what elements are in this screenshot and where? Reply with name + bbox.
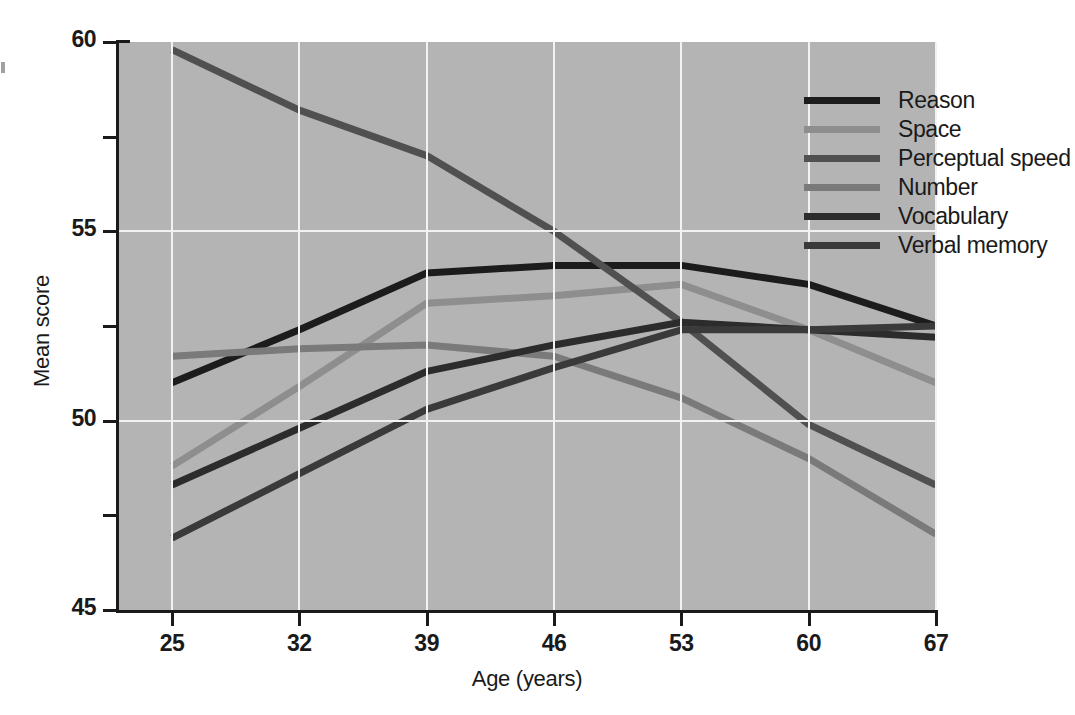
x-tick-67: [935, 611, 938, 626]
x-tick-label-25: 25: [142, 630, 202, 657]
x-tick-label-32: 32: [269, 630, 329, 657]
x-tick-label-67: 67: [906, 630, 966, 657]
x-axis-line: [116, 610, 938, 613]
plot-area: ReasonSpacePerceptual speedNumberVocabul…: [118, 42, 936, 610]
legend-label: Reason: [898, 89, 975, 112]
x-tick-53: [680, 611, 683, 626]
y-axis-top-cap: [116, 40, 130, 43]
y-tick-label-60: 60: [40, 26, 96, 53]
y-minor-tick-52.5: [103, 325, 118, 328]
y-tick-60: [103, 41, 118, 44]
y-tick-50: [103, 420, 118, 423]
x-tick-39: [426, 611, 429, 626]
legend-label: Space: [898, 118, 961, 141]
page-edge-artifact: [1, 62, 5, 73]
x-tick-label-46: 46: [524, 630, 584, 657]
y-axis-title: Mean score: [29, 231, 55, 431]
x-tick-60: [808, 611, 811, 626]
x-tick-32: [298, 611, 301, 626]
vertical-gridline-46: [553, 42, 555, 610]
legend: ReasonSpacePerceptual speedNumberVocabul…: [804, 86, 1075, 260]
x-tick-label-60: 60: [779, 630, 839, 657]
legend-swatch-icon: [804, 242, 880, 249]
vertical-gridline-53: [680, 42, 682, 610]
vertical-gridline-39: [426, 42, 428, 610]
vertical-gridline-25: [171, 42, 173, 610]
y-tick-55: [103, 230, 118, 233]
legend-swatch-icon: [804, 126, 880, 133]
x-tick-label-39: 39: [397, 630, 457, 657]
legend-swatch-icon: [804, 155, 880, 162]
legend-label: Number: [898, 176, 977, 199]
legend-label: Perceptual speed: [898, 147, 1071, 170]
x-tick-label-53: 53: [651, 630, 711, 657]
y-minor-tick-47.5: [103, 514, 118, 517]
legend-swatch-icon: [804, 184, 880, 191]
legend-item-number: Number: [804, 173, 1075, 202]
legend-label: Vocabulary: [898, 205, 1008, 228]
legend-item-vocabulary: Vocabulary: [804, 202, 1075, 231]
y-tick-label-45: 45: [40, 594, 96, 621]
legend-swatch-icon: [804, 213, 880, 220]
y-tick-45: [103, 609, 118, 612]
x-axis-title: Age (years): [337, 666, 717, 692]
horizontal-gridline-50: [118, 420, 936, 422]
legend-swatch-icon: [804, 97, 880, 104]
y-minor-tick-57.5: [103, 136, 118, 139]
legend-item-verbal-memory: Verbal memory: [804, 231, 1075, 260]
legend-item-perceptual-speed: Perceptual speed: [804, 144, 1075, 173]
legend-item-reason: Reason: [804, 86, 1075, 115]
legend-label: Verbal memory: [898, 234, 1047, 257]
x-tick-25: [171, 611, 174, 626]
x-tick-46: [553, 611, 556, 626]
legend-item-space: Space: [804, 115, 1075, 144]
vertical-gridline-32: [298, 42, 300, 610]
